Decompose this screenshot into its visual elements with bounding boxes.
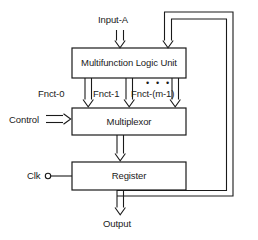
label-output: Output — [103, 218, 131, 229]
control-arrow — [46, 114, 71, 124]
block-diagram: Input-A Multifunction Logic Unit Fnct-0 … — [0, 0, 258, 240]
mux-to-register-arrow — [115, 135, 125, 161]
fnct-0-arrow — [83, 78, 93, 107]
output-arrow — [115, 190, 125, 215]
label-fnct-ellipsis: • • • — [146, 78, 171, 88]
label-control: Control — [9, 114, 39, 125]
label-fnct-1: Fnct-1 — [93, 88, 119, 99]
label-fnct-0: Fnct-0 — [38, 88, 64, 99]
label-clk: Clk — [27, 170, 40, 181]
input-a-arrow — [115, 30, 125, 48]
label-register: Register — [72, 170, 186, 181]
label-multifunction-logic-unit: Multifunction Logic Unit — [72, 57, 186, 68]
clk-connection — [45, 173, 72, 178]
label-multiplexor: Multiplexor — [72, 116, 186, 127]
label-input-a: Input-A — [98, 14, 128, 25]
label-fnct-m-1: Fnct-(m-1) — [131, 88, 174, 99]
